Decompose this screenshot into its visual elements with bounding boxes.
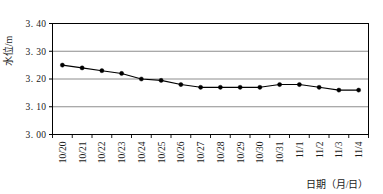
x-tick-labels: 10/2010/2110/2210/2310/2410/2510/2610/27… [58, 141, 364, 163]
data-point-marker [337, 88, 341, 92]
water-level-line-chart: 3. 003. 103. 203. 303. 40 10/2010/2110/2… [0, 0, 383, 194]
data-point-marker [297, 82, 301, 86]
gridlines-group [53, 51, 369, 107]
data-point-marker [238, 85, 242, 89]
y-tick-label: 3. 20 [26, 74, 47, 84]
x-axis-title-text: 日期（月/日） [306, 179, 369, 190]
data-point-marker [199, 85, 203, 89]
y-tick-label: 3. 00 [26, 130, 47, 140]
x-tick-label: 10/27 [196, 141, 206, 163]
data-point-marker [317, 85, 321, 89]
y-tick-labels: 3. 003. 103. 203. 303. 40 [26, 19, 47, 140]
chart-canvas: 3. 003. 103. 203. 303. 40 10/2010/2110/2… [0, 0, 383, 194]
data-point-marker [357, 88, 361, 92]
data-point-marker [60, 63, 64, 67]
x-tick-label: 10/28 [216, 141, 226, 163]
x-tick-label: 10/30 [255, 141, 265, 163]
y-tick-marks [49, 24, 53, 135]
x-tick-marks [53, 135, 369, 139]
y-axis-title: 水位/m [2, 36, 14, 67]
x-tick-label: 10/23 [117, 141, 127, 163]
data-point-marker [159, 78, 163, 82]
y-tick-label: 3. 40 [26, 19, 47, 29]
data-point-marker [258, 85, 262, 89]
x-tick-label: 11/3 [334, 141, 344, 158]
data-point-marker [80, 66, 84, 70]
data-point-marker [120, 71, 124, 75]
x-tick-label: 10/22 [97, 141, 107, 163]
x-tick-label: 10/26 [176, 141, 186, 163]
data-point-marker [218, 85, 222, 89]
data-point-marker [179, 82, 183, 86]
x-tick-label: 11/4 [354, 141, 364, 158]
x-tick-label: 11/2 [315, 141, 325, 158]
data-point-marker [278, 82, 282, 86]
x-tick-label: 10/24 [137, 141, 147, 163]
x-tick-label: 10/21 [78, 141, 88, 163]
y-tick-label: 3. 30 [26, 47, 47, 57]
x-tick-label: 10/20 [58, 141, 68, 163]
data-point-marker [139, 77, 143, 81]
x-tick-label: 10/29 [236, 141, 246, 163]
x-tick-label: 10/31 [275, 141, 285, 163]
x-axis-title: 日期（月/日） [306, 179, 369, 190]
y-tick-label: 3. 10 [26, 102, 47, 112]
series-polyline-water-level [62, 65, 358, 90]
data-point-marker [100, 69, 104, 73]
series-line [62, 65, 358, 90]
x-tick-label: 10/25 [157, 141, 167, 163]
x-tick-label: 11/1 [295, 141, 305, 158]
y-axis-title-text: 水位/m [2, 36, 14, 67]
